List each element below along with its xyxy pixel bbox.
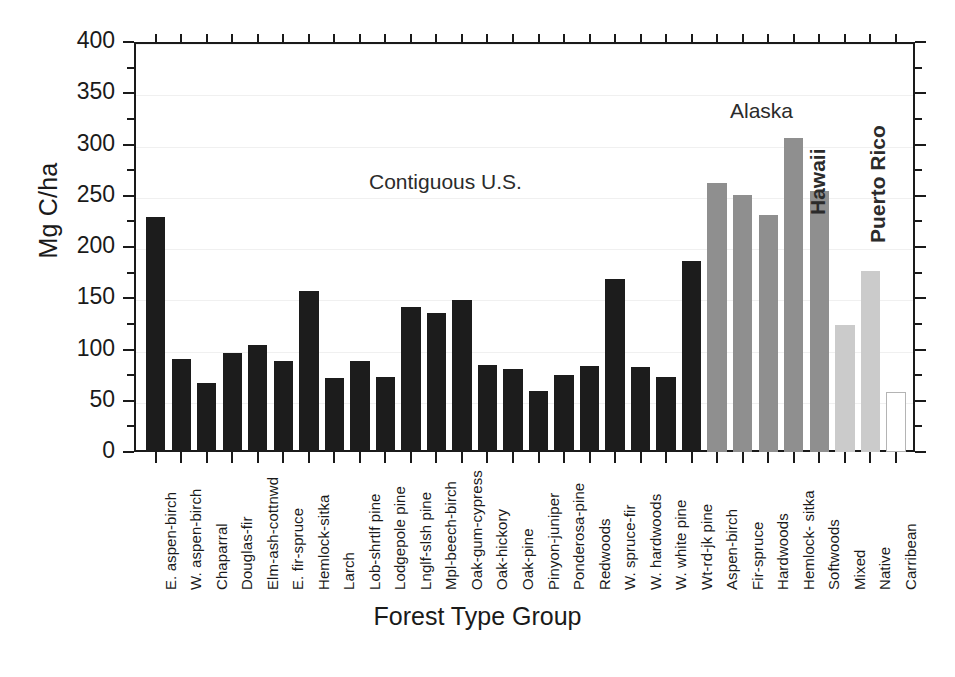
x-tick-label: Hemlock-sitka — [315, 495, 332, 590]
x-tick-top — [282, 34, 284, 42]
x-tick-top — [333, 34, 335, 42]
y-tick-minor-right — [915, 118, 922, 120]
bar — [605, 279, 624, 452]
bar — [146, 217, 165, 452]
bar — [376, 377, 395, 452]
x-tick-label: Elm-ash-cottnwd — [264, 477, 281, 590]
y-tick-label: 300 — [45, 130, 115, 157]
x-tick-top — [257, 34, 259, 42]
x-tick-top — [895, 34, 897, 42]
bar — [401, 307, 420, 452]
x-tick-top — [538, 34, 540, 42]
y-tick-major — [123, 297, 134, 299]
x-tick-label: Lob-shrtlf pine — [366, 493, 383, 590]
bar — [682, 261, 701, 452]
y-tick-minor-right — [915, 272, 922, 274]
x-tick-label: Fir-spruce — [749, 521, 766, 590]
y-tick-label: 100 — [45, 335, 115, 362]
y-tick-label: 400 — [45, 27, 115, 54]
x-tick-label: Oak-gum-cypress — [468, 470, 485, 590]
y-tick-major-right — [915, 349, 926, 351]
x-tick-label: W. hardwoods — [647, 494, 664, 590]
x-tick-label: Redwoods — [596, 518, 613, 590]
x-tick-label: Oak-pine — [519, 528, 536, 590]
bar — [580, 366, 599, 452]
y-tick-label: 150 — [45, 283, 115, 310]
y-tick-minor — [127, 220, 134, 222]
x-tick-top — [716, 34, 718, 42]
x-tick-label: Carribean — [902, 523, 919, 590]
bar — [554, 375, 573, 452]
bars-container — [134, 42, 915, 452]
y-tick-minor — [127, 169, 134, 171]
x-tick-top — [767, 34, 769, 42]
bar — [784, 138, 803, 452]
y-tick-major-right — [915, 246, 926, 248]
bar — [248, 345, 267, 452]
bar — [478, 365, 497, 452]
y-tick-major-right — [915, 92, 926, 94]
y-tick-minor — [127, 323, 134, 325]
bar — [529, 391, 548, 453]
y-tick-major-right — [915, 400, 926, 402]
y-tick-major-right — [915, 451, 926, 453]
x-tick-top — [231, 34, 233, 42]
y-tick-label: 50 — [45, 386, 115, 413]
bar — [656, 377, 675, 452]
bar — [172, 359, 191, 452]
y-tick-major-right — [915, 144, 926, 146]
x-tick-label: Lodgepole pine — [391, 486, 408, 590]
y-tick-minor-right — [915, 374, 922, 376]
y-tick-major-right — [915, 41, 926, 43]
x-tick-label: Lnglf-slsh pine — [417, 492, 434, 590]
bar-chart: Mg C/ha 050100150200250300350400 E. aspe… — [0, 0, 955, 677]
y-tick-major — [123, 349, 134, 351]
x-tick-label: Hemlock- sitka — [800, 490, 817, 590]
bar — [835, 325, 854, 452]
x-tick-top — [793, 34, 795, 42]
x-tick-label: W. white pine — [672, 499, 689, 590]
region-annotation: Hawaii — [806, 148, 830, 215]
bar — [631, 367, 650, 452]
bar — [733, 195, 752, 452]
x-tick-top — [461, 34, 463, 42]
y-tick-label: 200 — [45, 232, 115, 259]
y-tick-minor-right — [915, 323, 922, 325]
bar — [350, 361, 369, 452]
x-tick-top — [691, 34, 693, 42]
x-tick-top — [869, 34, 871, 42]
x-tick-top — [206, 34, 208, 42]
x-tick-label: W. aspen-birch — [187, 489, 204, 590]
x-tick-label: Chaparral — [213, 523, 230, 590]
x-tick-label: Hardwoods — [774, 513, 791, 590]
x-tick-top — [818, 34, 820, 42]
x-tick-top — [486, 34, 488, 42]
y-tick-minor — [127, 67, 134, 69]
y-tick-minor-right — [915, 425, 922, 427]
x-tick-label: Aspen-birch — [723, 509, 740, 590]
y-tick-major — [123, 400, 134, 402]
y-tick-major-right — [915, 297, 926, 299]
x-tick-label: Mixed — [851, 549, 868, 590]
region-annotation: Contiguous U.S. — [369, 170, 522, 194]
x-tick-top — [844, 34, 846, 42]
x-tick-label: Softwoods — [825, 519, 842, 590]
bar — [274, 361, 293, 452]
x-tick-top — [640, 34, 642, 42]
x-tick-top — [742, 34, 744, 42]
x-tick-label: Mpl-beech-birch — [442, 481, 459, 590]
y-tick-major — [123, 41, 134, 43]
x-tick-label: Pinyon-juniper — [545, 493, 562, 590]
y-tick-label: 0 — [45, 437, 115, 464]
x-axis-tick-labels: E. aspen-birchW. aspen-birchChaparralDou… — [134, 460, 915, 600]
bar — [427, 313, 446, 452]
bar — [886, 392, 905, 452]
y-tick-major — [123, 144, 134, 146]
y-tick-major — [123, 246, 134, 248]
x-tick-top — [308, 34, 310, 42]
x-tick-label: Wt-rd-jk pine — [698, 504, 715, 590]
x-tick-top — [435, 34, 437, 42]
bar — [197, 383, 216, 452]
y-tick-minor — [127, 425, 134, 427]
x-tick-top — [589, 34, 591, 42]
